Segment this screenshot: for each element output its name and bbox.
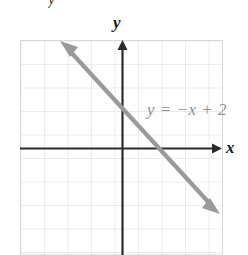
y-axis-label: y (113, 14, 121, 31)
graph-figure: y y x y = −x + 2 (0, 0, 248, 255)
equation-annotation: y = −x + 2 (147, 101, 227, 118)
coordinate-plane-svg (0, 0, 248, 255)
scan-artifact-glyph: y (48, 0, 57, 8)
x-axis-label: x (226, 139, 235, 156)
